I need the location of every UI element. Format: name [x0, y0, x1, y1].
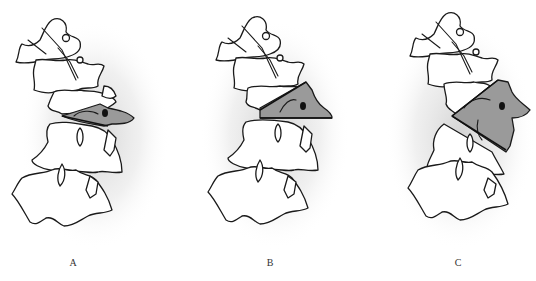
- foramen: [300, 102, 306, 110]
- spinous-process: [77, 128, 83, 146]
- vertebra-upper-1: [410, 13, 474, 57]
- foramen: [102, 109, 108, 117]
- panel-a: A: [0, 0, 180, 281]
- joint-knob: [77, 57, 83, 63]
- joint-knob: [277, 55, 283, 61]
- spinous-process: [275, 124, 281, 142]
- joint-knob: [457, 29, 464, 36]
- panel-label-b: B: [260, 257, 280, 268]
- joint-knob: [473, 49, 479, 55]
- panel-label-c: C: [448, 257, 468, 268]
- spine-illustration-b: [180, 0, 360, 281]
- spine-illustration-c: [360, 0, 536, 281]
- panel-c: C: [360, 0, 536, 281]
- spine-illustration-a: [0, 0, 180, 281]
- vertebra-upper-1: [16, 19, 80, 63]
- panel-b: B: [180, 0, 360, 281]
- foramen: [499, 102, 505, 110]
- panel-label-a: A: [63, 257, 83, 268]
- joint-knob: [263, 33, 270, 40]
- spinous-process: [467, 134, 473, 152]
- joint-knob: [63, 35, 70, 42]
